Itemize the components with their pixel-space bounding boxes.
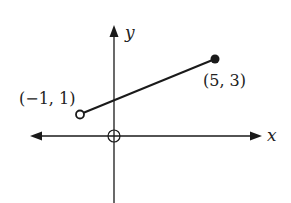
x-axis-label: x (267, 125, 277, 145)
end-point-label: (5, 3) (203, 71, 246, 90)
x-axis-right-arrow-icon (250, 132, 262, 141)
closed-endpoint-icon (211, 55, 220, 64)
y-axis-label: y (124, 22, 135, 42)
line-segment (83, 59, 215, 113)
start-point-label: (−1, 1) (19, 89, 75, 108)
y-axis-up-arrow-icon (110, 25, 119, 37)
coordinate-plane: y x (−1, 1) (5, 3) (0, 0, 291, 203)
x-axis-left-arrow-icon (30, 132, 42, 141)
open-endpoint-icon (76, 111, 84, 119)
